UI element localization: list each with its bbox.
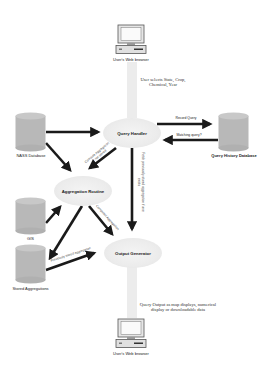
output-generator-label: Output Generator — [115, 251, 151, 256]
record-query-label: Record Query — [168, 116, 204, 120]
query-handler-node: Query Handler — [103, 118, 161, 148]
aggregation-routine-node: Aggregation Routine — [54, 176, 112, 206]
matching-query-label: Matching query? — [170, 133, 208, 137]
query-history-database-label: Query History Database — [205, 153, 263, 158]
gis-database-icon — [15, 197, 46, 235]
aggregation-routine-label: Aggregation Routine — [62, 189, 105, 194]
query-history-database-icon — [218, 112, 249, 152]
output-generator-node: Output Generator — [104, 238, 162, 268]
query-handler-label: Query Handler — [117, 131, 147, 136]
nass-database-icon — [15, 112, 46, 152]
stored-aggregations-label: Stored Aggregations — [12, 286, 49, 291]
user-browser-top-label: User's Web browser — [105, 57, 157, 62]
computer-icon-top — [115, 24, 147, 56]
fetch-stored-label: Fetch previously stored aggregation if o… — [137, 150, 144, 214]
computer-icon-bottom — [115, 318, 147, 350]
nass-database-label: NASS Database — [8, 153, 54, 158]
query-output-annotation: Query Output as map displays, numerical … — [138, 302, 218, 312]
stored-aggregations-database-icon — [15, 244, 46, 284]
user-selects-annotation: User selects State, Crop, Chemical, Year — [134, 77, 192, 87]
gis-label: GIS — [15, 236, 46, 241]
light-arrow-bottom — [127, 266, 137, 318]
user-browser-bottom-label: User's Web browser — [105, 351, 157, 356]
light-arrow-top — [127, 62, 137, 118]
